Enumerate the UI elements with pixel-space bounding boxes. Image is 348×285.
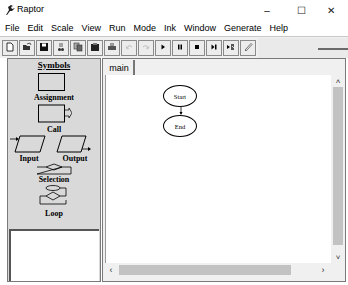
scroll-left-icon[interactable]: ‹ bbox=[105, 263, 117, 277]
new-button[interactable] bbox=[2, 40, 18, 56]
zoom-slider-track[interactable] bbox=[318, 48, 348, 50]
save-button[interactable] bbox=[36, 40, 52, 56]
stop-button[interactable] bbox=[189, 40, 205, 56]
maximize-button[interactable]: ☐ bbox=[284, 0, 318, 20]
raptor-app-icon bbox=[4, 4, 16, 16]
symbols-header: Symbols bbox=[8, 60, 100, 70]
copy-icon bbox=[73, 42, 83, 54]
symbol-label-assignment: Assignment bbox=[8, 93, 100, 102]
play-icon bbox=[158, 42, 168, 54]
print-icon bbox=[107, 42, 117, 54]
save-icon bbox=[39, 42, 49, 54]
symbol-input[interactable] bbox=[10, 135, 46, 153]
paste-icon bbox=[90, 42, 100, 54]
symbol-call[interactable] bbox=[38, 104, 72, 124]
main-area: main Start End ˄ ˅ ‹ › bbox=[102, 58, 346, 282]
end-node[interactable]: End bbox=[163, 115, 197, 137]
open-icon bbox=[22, 42, 32, 54]
scroll-corner bbox=[331, 263, 345, 277]
symbol-assignment[interactable] bbox=[38, 73, 65, 91]
open-button[interactable] bbox=[19, 40, 35, 56]
run-button[interactable] bbox=[155, 40, 171, 56]
selection-shape-icon bbox=[36, 163, 72, 175]
menu-window[interactable]: Window bbox=[181, 23, 221, 33]
menu-edit[interactable]: Edit bbox=[25, 23, 49, 33]
horizontal-scrollbar[interactable]: ‹ › bbox=[105, 263, 331, 277]
copy-button[interactable] bbox=[70, 40, 86, 56]
toolbar-slider-area bbox=[258, 38, 348, 58]
redo-button[interactable] bbox=[138, 40, 154, 56]
minimize-button[interactable]: – bbox=[250, 0, 284, 20]
symbol-label-input: Input bbox=[14, 154, 44, 163]
scroll-down-icon[interactable]: ˅ bbox=[331, 251, 345, 263]
stop-icon bbox=[192, 42, 202, 54]
symbol-output[interactable] bbox=[56, 135, 92, 153]
menu-file[interactable]: File bbox=[2, 23, 25, 33]
tab-strip: main bbox=[103, 59, 345, 75]
symbol-selection[interactable] bbox=[36, 163, 72, 175]
pen-button[interactable] bbox=[240, 40, 256, 56]
scroll-up-icon[interactable]: ˄ bbox=[331, 75, 345, 87]
symbol-loop[interactable] bbox=[38, 185, 70, 205]
title-bar: Raptor – ☐ ✕ bbox=[0, 0, 348, 20]
menu-run[interactable]: Run bbox=[106, 23, 131, 33]
close-button[interactable]: ✕ bbox=[314, 0, 348, 20]
symbol-label-call: Call bbox=[8, 125, 100, 134]
symbols-panel: Symbols Assignment Call Input Output Sel… bbox=[7, 58, 101, 282]
paste-button[interactable] bbox=[87, 40, 103, 56]
symbol-label-output: Output bbox=[58, 154, 92, 163]
pause-icon bbox=[175, 42, 185, 54]
horizontal-scroll-thumb[interactable] bbox=[119, 265, 291, 275]
call-shape-icon bbox=[38, 104, 72, 124]
menu-generate[interactable]: Generate bbox=[221, 23, 267, 33]
step-button[interactable] bbox=[206, 40, 222, 56]
toolbar bbox=[0, 36, 348, 58]
menu-scale[interactable]: Scale bbox=[48, 23, 79, 33]
symbol-label-loop: Loop bbox=[8, 209, 100, 218]
pause-button[interactable] bbox=[172, 40, 188, 56]
undo-icon bbox=[124, 42, 134, 54]
new-icon bbox=[5, 42, 15, 54]
cut-button[interactable] bbox=[53, 40, 69, 56]
cut-icon bbox=[56, 42, 66, 54]
output-shape-icon bbox=[56, 135, 92, 153]
start-node[interactable]: Start bbox=[163, 85, 197, 107]
menu-ink[interactable]: Ink bbox=[161, 23, 181, 33]
undo-button[interactable] bbox=[121, 40, 137, 56]
scroll-right-icon[interactable]: › bbox=[317, 263, 329, 277]
menu-mode[interactable]: Mode bbox=[130, 23, 161, 33]
print-button[interactable] bbox=[104, 40, 120, 56]
menu-help[interactable]: Help bbox=[267, 23, 294, 33]
symbol-label-selection: Selection bbox=[8, 175, 100, 184]
pen-icon bbox=[243, 42, 253, 54]
loop-shape-icon bbox=[38, 185, 70, 205]
step-icon bbox=[209, 42, 219, 54]
window-title: Raptor bbox=[17, 4, 44, 14]
menu-bar: File Edit Scale View Run Mode Ink Window… bbox=[0, 20, 348, 36]
step-into-button[interactable] bbox=[223, 40, 239, 56]
redo-icon bbox=[141, 42, 151, 54]
input-shape-icon bbox=[10, 135, 46, 153]
step-into-icon bbox=[226, 42, 236, 54]
tab-main[interactable]: main bbox=[105, 60, 135, 75]
menu-view[interactable]: View bbox=[79, 23, 106, 33]
vertical-scrollbar[interactable]: ˄ ˅ bbox=[331, 75, 345, 263]
watch-window[interactable] bbox=[9, 229, 99, 281]
flowchart-canvas[interactable]: Start End bbox=[105, 75, 331, 263]
vertical-scroll-thumb[interactable] bbox=[333, 87, 343, 245]
